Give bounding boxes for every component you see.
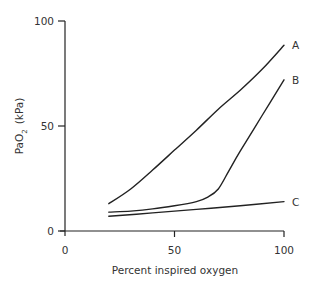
series-label: B: [292, 74, 299, 86]
y-axis-label: PaO2(kPa): [13, 98, 29, 155]
plot-area: ABC: [109, 39, 300, 216]
y-tick-label: 50: [41, 120, 54, 132]
series-label: C: [292, 196, 299, 208]
x-axis: 050100 Percent inspired oxygen: [60, 231, 294, 276]
series-line: [109, 202, 284, 217]
x-tick-label: 50: [168, 244, 181, 256]
y-tick-label: 100: [34, 15, 54, 27]
chart: 050100 PaO2(kPa) 050100 Percent inspired…: [0, 0, 313, 289]
series-line: [109, 80, 284, 212]
x-tick-label: 0: [62, 244, 69, 256]
x-tick-label: 100: [274, 244, 294, 256]
y-tick-label: 0: [47, 225, 54, 237]
series-b: B: [109, 74, 299, 212]
series-line: [109, 45, 284, 204]
x-axis-label: Percent inspired oxygen: [112, 264, 238, 276]
series-a: A: [109, 39, 300, 204]
series-label: A: [292, 39, 300, 51]
y-axis: 050100 PaO2(kPa): [13, 15, 65, 237]
